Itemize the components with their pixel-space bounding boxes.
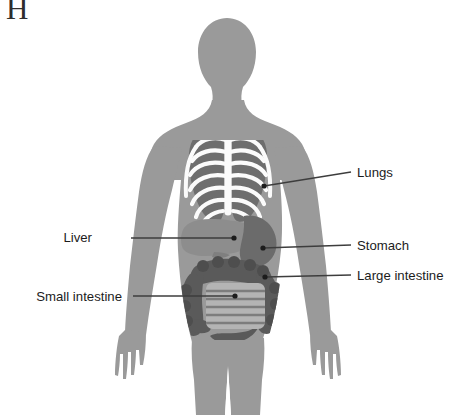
anatomy-figure: H <box>0 0 455 415</box>
label-small-intestine: Small intestine <box>36 290 122 303</box>
label-lungs: Lungs <box>357 166 393 179</box>
label-large-intestine: Large intestine <box>357 269 444 282</box>
small-intestine-organ <box>200 283 272 329</box>
label-liver: Liver <box>63 231 92 244</box>
anatomy-illustration <box>0 0 455 415</box>
label-stomach: Stomach <box>357 239 409 252</box>
